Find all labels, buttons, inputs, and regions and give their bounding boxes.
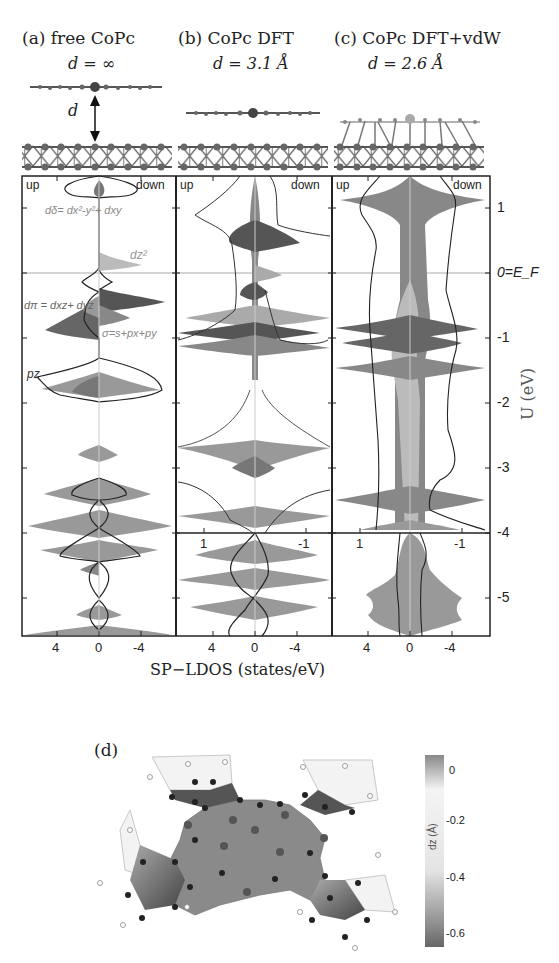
- panel-b-dos: [178, 176, 330, 636]
- inner-x-tick-c-m1: -1: [454, 536, 466, 551]
- x-tick-a-4: 4: [52, 640, 59, 655]
- panel-b-up-label: up: [180, 178, 193, 192]
- panel-a-up-label: up: [26, 178, 39, 192]
- x-tick-a-0: 0: [95, 640, 102, 655]
- dos-chart: [0, 0, 559, 700]
- panel-d-label: (d): [94, 740, 118, 760]
- colorbar: [425, 755, 444, 947]
- x-tick-b-4: 4: [208, 640, 215, 655]
- x-tick-c-4: 4: [363, 640, 370, 655]
- x-tick-a-m4: -4: [133, 640, 145, 655]
- label-d-z2: dz²: [130, 248, 147, 262]
- y-axis-label: U (eV): [518, 368, 537, 420]
- x-tick-c-0: 0: [406, 640, 413, 655]
- panel-a-dos: [25, 176, 172, 636]
- x-tick-b-0: 0: [251, 640, 258, 655]
- y-tick-m1: -1: [497, 329, 509, 345]
- panel-c-dos: [335, 176, 485, 636]
- y-tick-m3: -3: [497, 459, 509, 475]
- x-tick-b-m4: -4: [289, 640, 301, 655]
- x-tick-c-m4: -4: [444, 640, 456, 655]
- y-tick-1: 1: [497, 199, 505, 215]
- inner-x-tick-b-1: 1: [200, 536, 207, 551]
- panel-c-down-label: down: [453, 178, 482, 192]
- y-tick-ef: 0=E_F: [497, 264, 539, 280]
- x-axis-label: SP−LDOS (states/eV): [150, 660, 325, 679]
- panel-c-up-label: up: [336, 178, 349, 192]
- colorbar-tick-m06: -0.6: [446, 927, 465, 939]
- label-p-z: pz: [27, 367, 40, 381]
- colorbar-label: dz (Å): [427, 823, 438, 850]
- label-d-delta: dδ= dx²-y²+ dxy: [45, 204, 121, 216]
- inner-x-tick-c-1: 1: [356, 536, 363, 551]
- panel-a-down-label: down: [136, 178, 165, 192]
- colorbar-tick-0: 0: [449, 764, 455, 776]
- y-tick-m2: -2: [497, 394, 509, 410]
- colorbar-tick-m02: -0.2: [446, 814, 465, 826]
- y-tick-m4: -4: [497, 524, 509, 540]
- label-d-pi: dπ = dxz+ dyz: [24, 299, 94, 311]
- label-sigma: σ=s+px+py: [102, 327, 157, 339]
- colorbar-tick-m04: -0.4: [446, 871, 465, 883]
- panel-b-down-label: down: [291, 178, 320, 192]
- y-tick-m5: -5: [497, 589, 509, 605]
- inner-x-tick-b-m1: -1: [298, 536, 310, 551]
